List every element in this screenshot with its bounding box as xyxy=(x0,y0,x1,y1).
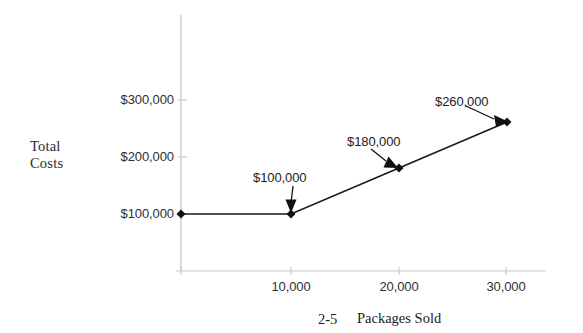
annotation-arrowhead-100000 xyxy=(286,200,297,214)
data-label-260000: $260,000 xyxy=(435,94,488,109)
data-label-180000: $180,000 xyxy=(347,134,400,149)
data-label-100000: $100,000 xyxy=(253,170,306,185)
x-tick-label-10000: 10,000 xyxy=(246,279,336,294)
page-number: 2-5 xyxy=(318,311,337,328)
chart-page: Total Costs $300,000 $200,000 $100,000 1… xyxy=(0,0,583,333)
cost-series-line xyxy=(181,122,507,214)
y-tick-label-200000: $200,000 xyxy=(84,149,174,164)
x-tick-label-30000: 30,000 xyxy=(461,279,551,294)
annotation-leader-180000 xyxy=(371,149,386,161)
y-tick-label-300000: $300,000 xyxy=(84,92,174,107)
annotation-arrowhead-180000 xyxy=(384,157,399,169)
data-point-marker-0 xyxy=(177,210,186,219)
x-tick-label-20000: 20,000 xyxy=(354,279,444,294)
x-axis-title: Packages Sold xyxy=(357,310,441,327)
y-tick-label-100000: $100,000 xyxy=(84,206,174,221)
data-point-marker-20000 xyxy=(395,164,404,173)
